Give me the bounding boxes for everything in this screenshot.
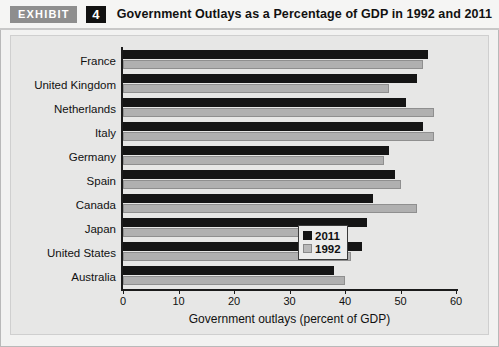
category-label: Germany: [69, 147, 116, 167]
bar-group: Japan: [123, 217, 456, 241]
legend-label-2011: 2011: [315, 230, 340, 242]
legend-item-1992: 1992: [303, 242, 341, 255]
x-tick-label: 0: [120, 295, 126, 307]
legend-label-1992: 1992: [315, 243, 341, 255]
bar-1992: [123, 276, 345, 285]
x-tick-label: 30: [283, 295, 295, 307]
bar-2011: [123, 194, 373, 203]
bar-2011: [123, 98, 406, 107]
x-tick: [401, 289, 402, 294]
bar-group: France: [123, 49, 456, 73]
bar-1992: [123, 156, 384, 165]
x-tick-label: 20: [228, 295, 240, 307]
exhibit-number-badge: 4: [86, 6, 106, 23]
bar-group: United Kingdom: [123, 73, 456, 97]
x-tick-label: 10: [172, 295, 184, 307]
category-label: United States: [47, 243, 116, 263]
bar-2011: [123, 122, 423, 131]
x-tick: [456, 289, 457, 294]
category-label: Italy: [95, 123, 116, 143]
legend-swatch-2011: [303, 231, 312, 240]
category-label: Japan: [85, 219, 116, 239]
bar-group: Spain: [123, 169, 456, 193]
legend-item-2011: 2011: [303, 229, 341, 242]
category-label: Canada: [76, 195, 116, 215]
bar-1992: [123, 132, 434, 141]
chart-panel: 0102030405060 FranceUnited KingdomNether…: [10, 35, 489, 335]
bar-group: Italy: [123, 121, 456, 145]
x-tick: [179, 289, 180, 294]
bar-group: Canada: [123, 193, 456, 217]
bar-2011: [123, 146, 389, 155]
exhibit-title: Government Outlays as a Percentage of GD…: [117, 7, 492, 21]
bar-group: Germany: [123, 145, 456, 169]
bar-2011: [123, 266, 334, 275]
bar-1992: [123, 204, 417, 213]
bar-group: Netherlands: [123, 97, 456, 121]
x-tick-label: 60: [450, 295, 462, 307]
category-label: Spain: [87, 171, 116, 191]
exhibit-page: EXHIBIT 4 Government Outlays as a Percen…: [0, 0, 499, 347]
x-tick: [345, 289, 346, 294]
x-axis-label: Government outlays (percent of GDP): [123, 312, 456, 326]
x-tick: [290, 289, 291, 294]
bar-1992: [123, 108, 434, 117]
bar-2011: [123, 50, 428, 59]
bar-group: United States: [123, 241, 456, 265]
category-label: Netherlands: [54, 99, 116, 119]
bar-2011: [123, 74, 417, 83]
bar-1992: [123, 180, 401, 189]
x-tick-label: 40: [339, 295, 351, 307]
legend-swatch-1992: [303, 244, 312, 253]
exhibit-header: EXHIBIT 4 Government Outlays as a Percen…: [0, 0, 499, 28]
category-label: Australia: [71, 267, 116, 287]
category-label: United Kingdom: [34, 75, 116, 95]
bar-2011: [123, 170, 395, 179]
bar-group: Australia: [123, 265, 456, 289]
bar-1992: [123, 84, 389, 93]
header-divider: [0, 28, 499, 30]
category-label: France: [80, 51, 116, 71]
x-tick: [123, 289, 124, 294]
x-tick: [234, 289, 235, 294]
exhibit-tag-label: EXHIBIT: [10, 6, 77, 23]
bar-1992: [123, 60, 423, 69]
chart-legend: 2011 1992: [298, 225, 348, 260]
bar-1992: [123, 228, 312, 237]
x-tick-label: 50: [394, 295, 406, 307]
